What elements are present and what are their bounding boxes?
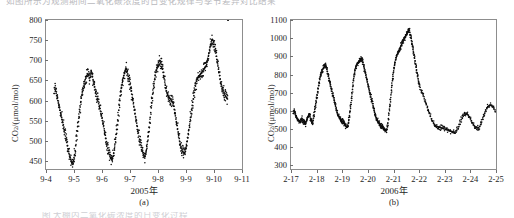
x-tick-label: 9-6	[96, 174, 107, 184]
y-tick-mark	[45, 141, 48, 142]
chart-panel-b: CO2/(μmol/mol) 3004005006007008009001000…	[258, 0, 514, 218]
panel-a-plot-area	[45, 19, 243, 170]
x-tick-label: 2-19	[335, 174, 351, 184]
chart-panel-a: CO2/(μmol/mol) 450500550600650700750800 …	[0, 0, 258, 218]
x-tick-mark	[496, 170, 497, 173]
y-tick-label: 700	[260, 88, 287, 98]
x-tick-label: 9-9	[180, 174, 191, 184]
y-tick-label: 600	[15, 96, 42, 106]
y-tick-label: 400	[260, 142, 287, 152]
y-tick-mark	[290, 111, 293, 112]
y-tick-label: 700	[15, 55, 42, 65]
y-tick-mark	[290, 20, 293, 21]
panel-a-x-axis-title: 2005年	[131, 184, 158, 197]
y-tick-label: 650	[15, 75, 42, 85]
y-tick-mark	[45, 80, 48, 81]
x-tick-mark	[186, 170, 187, 173]
x-tick-mark	[130, 170, 131, 173]
y-tick-label: 500	[15, 136, 42, 146]
x-tick-label: 9-10	[206, 174, 222, 184]
y-tick-label: 900	[260, 51, 287, 61]
x-tick-label: 2-22	[411, 174, 427, 184]
y-tick-mark	[45, 20, 48, 21]
panel-a-y-axis-label: CO2/(μmol/mol)	[10, 38, 20, 142]
x-tick-label: 2-25	[488, 174, 504, 184]
panel-b-label: (b)	[389, 197, 399, 207]
x-tick-label: 9-7	[124, 174, 135, 184]
x-tick-label: 9-5	[68, 174, 79, 184]
x-tick-label: 9-11	[234, 174, 249, 184]
panel-a-scatter-svg	[46, 20, 242, 169]
y-tick-label: 450	[15, 156, 42, 166]
x-tick-label: 2-18	[309, 174, 325, 184]
y-tick-label: 750	[15, 35, 42, 45]
panel-b-plot-area	[290, 19, 497, 170]
x-tick-mark	[470, 170, 471, 173]
y-tick-label: 1100	[260, 15, 287, 25]
y-tick-mark	[290, 56, 293, 57]
y-tick-mark	[45, 60, 48, 61]
x-tick-mark	[445, 170, 446, 173]
x-tick-mark	[291, 170, 292, 173]
y-tick-label: 300	[260, 160, 287, 170]
x-tick-mark	[368, 170, 369, 173]
y-tick-label: 800	[15, 15, 42, 25]
y-tick-mark	[290, 165, 293, 166]
x-tick-label: 2-20	[360, 174, 376, 184]
y-tick-label: 500	[260, 124, 287, 134]
x-tick-mark	[214, 170, 215, 173]
x-tick-mark	[102, 170, 103, 173]
y-tick-label: 1000	[260, 33, 287, 43]
y-tick-mark	[45, 121, 48, 122]
y-tick-mark	[290, 147, 293, 148]
x-tick-mark	[317, 170, 318, 173]
x-tick-label: 2-21	[386, 174, 402, 184]
y-tick-mark	[45, 161, 48, 162]
y-tick-mark	[290, 129, 293, 130]
x-tick-mark	[419, 170, 420, 173]
y-tick-label: 600	[260, 106, 287, 116]
x-tick-label: 9-4	[40, 174, 51, 184]
y-tick-mark	[45, 101, 48, 102]
figure-caption: 图 大棚内二氧化碳浓度的日变化过程	[42, 212, 472, 218]
y-tick-mark	[290, 75, 293, 76]
panel-a-label: (a)	[139, 197, 148, 207]
x-tick-mark	[46, 170, 47, 173]
panel-b-x-axis-title: 2006年	[381, 184, 408, 197]
x-tick-mark	[74, 170, 75, 173]
y-tick-mark	[290, 38, 293, 39]
x-tick-label: 2-23	[437, 174, 453, 184]
x-tick-mark	[242, 170, 243, 173]
y-tick-mark	[45, 40, 48, 41]
x-tick-mark	[342, 170, 343, 173]
x-tick-mark	[394, 170, 395, 173]
panel-b-scatter-svg	[291, 20, 496, 169]
y-tick-label: 800	[260, 70, 287, 80]
x-tick-label: 2-17	[283, 174, 299, 184]
y-tick-label: 550	[15, 116, 42, 126]
x-tick-label: 9-8	[152, 174, 163, 184]
x-tick-mark	[158, 170, 159, 173]
y-tick-mark	[290, 93, 293, 94]
x-tick-label: 2-24	[463, 174, 479, 184]
figure-caption-clipped: 图 大棚内二氧化碳浓度的日变化过程	[42, 212, 472, 218]
figure-root: 如图所示为观测期间二氧化碳浓度的日变化规律与季节差异对比结果 CO2/(μmol…	[0, 0, 514, 218]
